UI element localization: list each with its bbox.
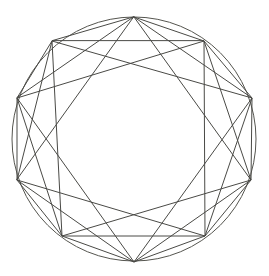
geometric-figure-canvas: Inscribed Octagram Geometric Constructio…: [0, 0, 269, 276]
octagram-8-3: [17, 17, 252, 262]
octagram-svg: [0, 0, 269, 276]
octagram-8-3-layer: [17, 17, 252, 262]
